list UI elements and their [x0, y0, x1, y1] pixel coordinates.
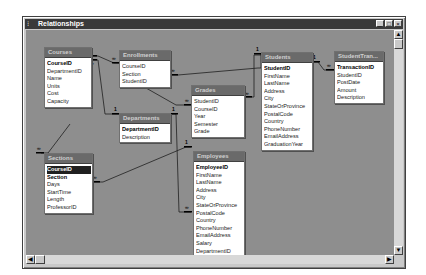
field-item[interactable]: PostDate [337, 79, 382, 87]
field-item[interactable]: GraduationYear [264, 141, 311, 149]
cardinality-many: ∞ [93, 175, 97, 180]
field-item[interactable]: DepartmentID [47, 68, 90, 76]
cardinality-one: 1 [313, 55, 316, 60]
table-title[interactable]: Employees [194, 152, 244, 162]
table-title[interactable]: Students [262, 53, 312, 63]
field-item[interactable]: Description [122, 134, 169, 142]
cardinality-one: 1 [185, 140, 188, 145]
table-title[interactable]: Enrollments [120, 51, 170, 61]
close-button[interactable]: × [394, 20, 402, 27]
field-item[interactable]: Capacity [47, 98, 90, 106]
table-grades[interactable]: Grades StudentID CourseID Year Semester … [191, 85, 245, 138]
table-student-transactions[interactable]: StudentTran... TransactionID StudentID P… [334, 51, 384, 104]
scroll-right-button[interactable]: ▶ [385, 255, 394, 264]
field-item[interactable]: Name [47, 75, 90, 83]
field-item[interactable]: Section [122, 71, 169, 79]
table-enrollments[interactable]: Enrollments CourseID Section StudentID [119, 50, 171, 88]
scroll-left-button[interactable]: ◀ [26, 255, 35, 264]
field-item[interactable]: Section [47, 174, 91, 182]
table-title[interactable]: StudentTran... [335, 52, 383, 62]
field-item[interactable]: Description [337, 94, 382, 102]
field-item[interactable]: PostalCode [264, 111, 311, 119]
field-item[interactable]: StartTime [47, 189, 91, 197]
relationships-window: ⁝ Relationships _ □ × [22, 16, 406, 269]
field-item[interactable]: Cost [47, 90, 90, 98]
vertical-scrollbar[interactable]: ▲ ▼ [394, 30, 403, 255]
size-grip[interactable] [394, 255, 403, 264]
field-item[interactable]: Address [264, 88, 311, 96]
cardinality-many: ∞ [327, 63, 331, 68]
field-item[interactable]: CourseID [47, 60, 90, 68]
field-item[interactable]: LastName [264, 80, 311, 88]
field-item[interactable]: Units [47, 83, 90, 91]
field-item[interactable]: Length [47, 196, 91, 204]
field-item[interactable]: Amount [337, 87, 382, 95]
cardinality-one: 1 [114, 107, 117, 112]
field-item[interactable]: LastName [196, 179, 243, 187]
cardinality-many: ∞ [112, 56, 116, 61]
field-item[interactable]: StudentID [337, 72, 382, 80]
table-departments[interactable]: Departments DepartmentID Description [119, 113, 171, 143]
field-item[interactable]: DepartmentID [196, 248, 243, 255]
field-item[interactable]: CourseID [194, 106, 243, 114]
field-item[interactable]: City [196, 194, 243, 202]
table-title[interactable]: Courses [45, 48, 91, 58]
field-item[interactable]: FirstName [196, 172, 243, 180]
field-item[interactable]: Days [47, 181, 91, 189]
table-title[interactable]: Sections [45, 154, 92, 164]
vertical-scroll-thumb[interactable] [394, 39, 403, 49]
field-item[interactable]: Semester [194, 121, 243, 129]
cardinality-many: ∞ [171, 68, 175, 73]
field-item[interactable]: EmailAddress [196, 232, 243, 240]
field-item[interactable]: Year [194, 113, 243, 121]
table-students[interactable]: Students StudentID FirstName LastName Ad… [261, 52, 313, 151]
table-title[interactable]: Departments [120, 114, 170, 124]
field-item[interactable]: DepartmentID [122, 126, 169, 134]
window-title: Relationships [38, 19, 84, 29]
cardinality-many: ∞ [185, 98, 189, 103]
field-item[interactable]: Address [196, 187, 243, 195]
field-item[interactable]: Country [264, 118, 311, 126]
field-item[interactable]: Country [196, 217, 243, 225]
field-item[interactable]: StateOrProvince [264, 103, 311, 111]
table-sections[interactable]: Sections CourseID Section Days StartTime… [44, 153, 93, 214]
field-item[interactable]: CourseID [122, 63, 169, 71]
field-item[interactable]: TransactionID [337, 64, 382, 72]
field-item[interactable]: Salary [196, 240, 243, 248]
field-item[interactable]: FirstName [264, 73, 311, 81]
cardinality-one: 1 [256, 47, 259, 52]
field-item-selected[interactable]: CourseID [47, 166, 91, 174]
scroll-up-button[interactable]: ▲ [394, 30, 403, 39]
cardinality-many: ∞ [245, 91, 249, 96]
field-item[interactable]: StateOrProvince [196, 202, 243, 210]
field-item[interactable]: PhoneNumber [264, 126, 311, 134]
field-item[interactable]: StudentID [122, 78, 169, 86]
field-item[interactable]: Grade [194, 128, 243, 136]
scroll-down-button[interactable]: ▼ [394, 246, 403, 255]
field-item[interactable]: StudentID [264, 65, 311, 73]
field-item[interactable]: City [264, 95, 311, 103]
table-employees[interactable]: Employees EmployeeID FirstName LastName … [193, 151, 245, 255]
minimize-button[interactable]: _ [376, 20, 384, 27]
horizontal-scrollbar[interactable]: ◀ ▶ [26, 255, 394, 264]
table-courses[interactable]: Courses CourseID DepartmentID Name Units… [44, 47, 92, 108]
field-item[interactable]: ProfessorID [47, 204, 91, 212]
field-item[interactable]: EmployeeID [196, 164, 243, 172]
title-bar[interactable]: ⁝ Relationships _ □ × [25, 19, 403, 29]
cardinality-one: 1 [172, 107, 175, 112]
field-item[interactable]: PhoneNumber [196, 225, 243, 233]
field-item[interactable]: PostalCode [196, 210, 243, 218]
system-menu-icon[interactable]: ⁝ [27, 20, 37, 28]
field-item[interactable]: EmailAddress [264, 133, 311, 141]
relationships-canvas[interactable]: 1 ∞ ∞ 1 ∞ 1 ∞ ∞ 1 ∞ 1 1 ∞ ∞ ∞ Courses Co… [26, 30, 394, 255]
cardinality-many: ∞ [37, 146, 41, 151]
field-item[interactable]: StudentID [194, 98, 243, 106]
maximize-button[interactable]: □ [385, 20, 393, 27]
cardinality-many: ∞ [185, 205, 189, 210]
table-title[interactable]: Grades [192, 86, 244, 96]
horizontal-scroll-thumb[interactable] [35, 255, 45, 264]
